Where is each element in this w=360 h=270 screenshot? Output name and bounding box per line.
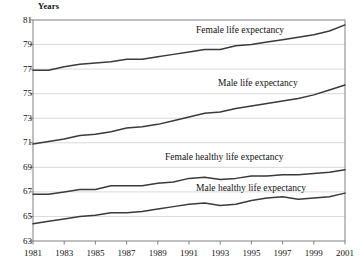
plot-frame [33, 20, 345, 241]
y-tick-label: 69 [10, 163, 32, 172]
series-label-female-healthy: Female healthy life expectancy [165, 152, 283, 162]
chart-plot-area [0, 0, 360, 270]
series-line-0 [33, 25, 345, 70]
x-tick-label: 1995 [242, 248, 260, 258]
x-tick-label: 1985 [86, 248, 104, 258]
y-tick-label: 81 [10, 16, 32, 25]
life-expectancy-chart: Years 81797775737169676563 1981198319851… [0, 0, 360, 270]
y-tick-label: 79 [10, 40, 32, 49]
x-tick-label: 1993 [211, 248, 229, 258]
x-tick-label: 1983 [55, 248, 73, 258]
series-label-female-life: Female life expectancy [196, 25, 284, 35]
y-tick-label: 75 [10, 89, 32, 98]
x-tick-label: 1989 [149, 248, 167, 258]
series-label-male-life: Male life expectancy [218, 78, 298, 88]
y-tick-label: 73 [10, 114, 32, 123]
y-tick-label: 63 [10, 237, 32, 246]
series-label-male-healthy: Male healthy life expectancy [196, 183, 306, 193]
y-tick-label: 71 [10, 138, 32, 147]
y-tick-label: 77 [10, 65, 32, 74]
series-line-3 [33, 193, 345, 224]
y-axis-title: Years [38, 1, 59, 11]
x-tick-label: 1999 [305, 248, 323, 258]
y-tick-label: 65 [10, 212, 32, 221]
x-tick-label: 1991 [180, 248, 198, 258]
x-tick-label: 1981 [24, 248, 42, 258]
y-tick-label: 67 [10, 187, 32, 196]
x-tick-label: 1987 [118, 248, 136, 258]
y-axis-tick-labels: 81797775737169676563 [0, 0, 32, 270]
x-tick-label: 2001 [336, 248, 354, 258]
x-tick-label: 1997 [274, 248, 292, 258]
